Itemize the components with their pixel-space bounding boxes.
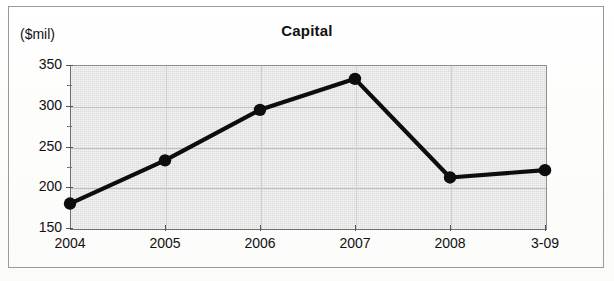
y-tick-label-300: 300 — [22, 97, 62, 113]
y-minor-tick-225 — [67, 167, 72, 168]
y-tick-label-350: 350 — [22, 56, 62, 72]
x-tick-label-2007: 2007 — [323, 235, 387, 251]
x-tick-2007 — [355, 225, 356, 231]
y-tick-350 — [66, 65, 73, 66]
plot-area — [70, 65, 547, 230]
y-tick-label-200: 200 — [22, 178, 62, 194]
y-tick-300 — [66, 106, 73, 107]
x-tick-3-09 — [545, 225, 546, 231]
gridline-x-2008 — [451, 66, 452, 229]
gridline-x-2007 — [356, 66, 357, 229]
y-tick-150 — [66, 228, 73, 229]
y-minor-tick-175 — [67, 208, 72, 209]
gridline-y-300 — [71, 107, 546, 108]
y-tick-label-150: 150 — [22, 219, 62, 235]
gridline-x-2005 — [166, 66, 167, 229]
x-tick-label-2005: 2005 — [133, 235, 197, 251]
gridline-x-2006 — [261, 66, 262, 229]
y-tick-200 — [66, 187, 73, 188]
x-tick-label-2008: 2008 — [418, 235, 482, 251]
x-tick-2005 — [165, 225, 166, 231]
gridline-y-200 — [71, 188, 546, 189]
y-minor-tick-325 — [67, 85, 72, 86]
gridline-y-250 — [71, 148, 546, 149]
chart-page: ($mil) Capital 150200250300350 200420052… — [0, 0, 614, 281]
x-tick-2006 — [260, 225, 261, 231]
chart-title: Capital — [0, 22, 614, 39]
y-tick-label-250: 250 — [22, 138, 62, 154]
x-tick-label-2006: 2006 — [228, 235, 292, 251]
y-minor-tick-275 — [67, 126, 72, 127]
x-tick-2008 — [450, 225, 451, 231]
y-tick-250 — [66, 147, 73, 148]
x-tick-label-2004: 2004 — [38, 235, 102, 251]
x-tick-label-3-09: 3-09 — [513, 235, 577, 251]
